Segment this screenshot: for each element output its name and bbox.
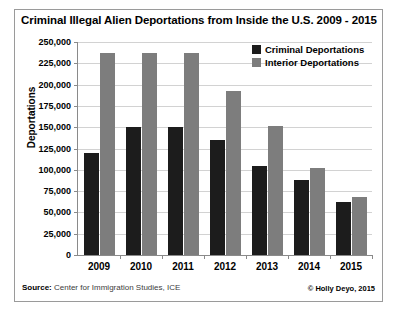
source-label: Source: — [22, 283, 52, 292]
x-axis-tick-label: 2012 — [214, 261, 236, 272]
x-tick-mark — [330, 255, 331, 259]
source-text: Center for Immigration Studies, ICE — [52, 283, 181, 292]
bar-group: 2009 — [78, 42, 120, 255]
legend-swatch-icon — [252, 58, 261, 67]
bar-group: 2014 — [288, 42, 330, 255]
bar-criminal-2013 — [252, 166, 267, 255]
y-axis-tick-label: 100,000 — [38, 165, 71, 175]
legend-item: Interior Deportations — [252, 57, 364, 68]
bar-criminal-2014 — [294, 180, 309, 255]
bar-group: 2011 — [162, 42, 204, 255]
chart-figure: Criminal Illegal Alien Deportations from… — [0, 0, 397, 311]
source-note: Source: Center for Immigration Studies, … — [22, 283, 180, 292]
x-axis-tick-label: 2013 — [256, 261, 278, 272]
y-axis-tick-label: 75,000 — [43, 186, 71, 196]
y-axis-tick-label: 200,000 — [38, 80, 71, 90]
y-axis-tick-label: 125,000 — [38, 144, 71, 154]
bar-interior-2011 — [184, 53, 199, 255]
legend-label: Criminal Deportations — [265, 44, 364, 55]
x-axis-tick-label: 2010 — [130, 261, 152, 272]
chart-title: Criminal Illegal Alien Deportations from… — [20, 14, 378, 26]
legend-swatch-icon — [252, 45, 261, 54]
y-axis-tick-label: 150,000 — [38, 122, 71, 132]
y-axis-tick-label: 175,000 — [38, 101, 71, 111]
bar-interior-2013 — [268, 126, 283, 255]
y-axis-title: Deportations — [26, 63, 37, 173]
chart-legend: Criminal DeportationsInterior Deportatio… — [252, 44, 364, 68]
x-tick-mark — [288, 255, 289, 259]
x-axis-tick-label: 2009 — [88, 261, 110, 272]
x-tick-mark — [204, 255, 205, 259]
bar-group: 2015 — [330, 42, 372, 255]
bar-interior-2014 — [310, 168, 325, 255]
y-axis-tick-label: 50,000 — [43, 207, 71, 217]
x-axis-tick-label: 2011 — [172, 261, 194, 272]
y-axis-tick-label: 25,000 — [43, 229, 71, 239]
plot-area: 025,00050,00075,000100,000125,000150,000… — [77, 42, 372, 256]
legend-item: Criminal Deportations — [252, 44, 364, 55]
bar-criminal-2011 — [168, 127, 183, 255]
y-axis-tick-label: 250,000 — [38, 37, 71, 47]
y-tick-mark — [74, 255, 78, 256]
bar-group: 2013 — [246, 42, 288, 255]
bar-group: 2010 — [120, 42, 162, 255]
x-axis-tick-label: 2014 — [298, 261, 320, 272]
copyright-credit: © Holly Deyo, 2015 — [308, 284, 375, 293]
y-axis-tick-label: 0 — [66, 250, 71, 260]
bar-criminal-2009 — [84, 153, 99, 255]
bar-interior-2012 — [226, 91, 241, 255]
bar-criminal-2010 — [126, 127, 141, 255]
bar-interior-2015 — [352, 197, 367, 255]
legend-label: Interior Deportations — [265, 57, 359, 68]
bar-interior-2010 — [142, 53, 157, 255]
x-tick-mark — [246, 255, 247, 259]
x-tick-mark — [372, 255, 373, 259]
bar-criminal-2015 — [336, 202, 351, 255]
y-axis-tick-label: 225,000 — [38, 58, 71, 68]
x-tick-mark — [162, 255, 163, 259]
bar-group: 2012 — [204, 42, 246, 255]
bar-criminal-2012 — [210, 140, 225, 255]
x-axis-tick-label: 2015 — [340, 261, 362, 272]
x-tick-mark — [120, 255, 121, 259]
bar-interior-2009 — [100, 53, 115, 255]
